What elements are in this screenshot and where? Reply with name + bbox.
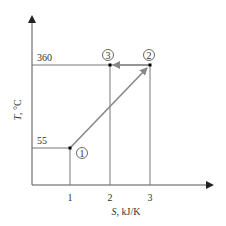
y-axis-label: T, °C (12, 99, 23, 121)
svg-text:1: 1 (80, 148, 85, 159)
y-tick-55: 55 (37, 135, 47, 146)
state-point-3 (109, 64, 112, 67)
state-point-2 (149, 64, 152, 67)
state-label-2: 2 (144, 50, 155, 61)
state-label-1: 1 (77, 148, 88, 159)
process-1-2-arrow (71, 68, 147, 147)
x-axis-label: S, kJ/K (112, 206, 142, 217)
svg-text:3: 3 (106, 50, 111, 61)
y-tick-360: 360 (37, 52, 52, 63)
state-label-3: 3 (103, 50, 114, 61)
x-tick-3: 3 (148, 192, 153, 203)
svg-text:2: 2 (147, 50, 152, 61)
x-tick-1: 1 (68, 192, 73, 203)
ts-diagram: 1 2 3 360 55 1 2 3 S, kJ/K T, °C (0, 0, 226, 226)
state-point-1 (69, 147, 72, 150)
x-tick-2: 2 (108, 192, 113, 203)
